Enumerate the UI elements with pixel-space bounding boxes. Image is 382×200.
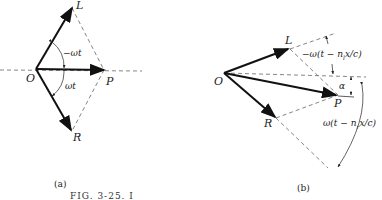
point-label-R-a: R xyxy=(73,132,81,143)
point-label-P-b: P xyxy=(334,98,341,109)
point-label-P-a: P xyxy=(106,76,113,87)
angle-label-right-phase: ω(t − nrx/c) xyxy=(323,119,376,131)
angle-label-minus-omega-t: −ωt xyxy=(63,49,82,58)
point-label-O-a: O xyxy=(26,73,35,84)
panel-a-diagram xyxy=(0,8,142,131)
angle-label-alpha: α xyxy=(339,82,345,91)
figure-canvas xyxy=(0,0,382,200)
angle-label-omega-t: ωt xyxy=(65,82,76,91)
panel-label-b: (b) xyxy=(297,183,310,193)
figure-caption: FIG. 3-25. I xyxy=(70,191,134,200)
point-label-L-b: L xyxy=(285,35,292,46)
point-label-R-b: R xyxy=(264,118,272,129)
panel-label-a: (a) xyxy=(54,179,66,189)
angle-label-left-phase: −ω(t − nlx/c) xyxy=(302,50,362,62)
point-label-O-b: O xyxy=(214,76,223,87)
point-label-L-a: L xyxy=(76,0,83,11)
